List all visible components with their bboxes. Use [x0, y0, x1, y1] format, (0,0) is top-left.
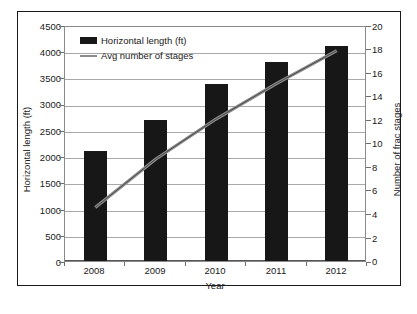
x-axis-title: Year: [64, 280, 366, 291]
legend-item-avg-stages[interactable]: Avg number of stages: [80, 48, 193, 63]
line-path-avg-stages: [95, 51, 337, 208]
x-axis-label-2008: 2008: [67, 266, 121, 276]
right-axis-tick-label: 2: [372, 234, 394, 244]
x-axis-label-2009: 2009: [128, 266, 182, 276]
chart-figure: 4500 4000 3500 3000 2500 2000 1500 1000 …: [0, 0, 417, 314]
x-axis-label-2011: 2011: [249, 266, 303, 276]
left-axis-tick-label: 500: [21, 232, 61, 242]
right-axis-tick-label: 16: [372, 69, 394, 79]
left-axis-tick-label: 4000: [21, 48, 61, 58]
x-axis-tickmark: [64, 262, 65, 266]
legend: Horizontal length (ft) Avg number of sta…: [80, 33, 193, 63]
legend-item-horizontal-length[interactable]: Horizontal length (ft): [80, 33, 193, 48]
x-axis-label-2010: 2010: [188, 266, 242, 276]
line-path-outline: [95, 51, 337, 208]
x-axis-tickmark: [366, 262, 367, 266]
x-axis-label-2012: 2012: [309, 266, 363, 276]
left-y-axis-title: Horizontal length (ft): [21, 80, 32, 220]
x-axis-tickmark: [185, 262, 186, 266]
left-axis-tick-label: 0: [21, 258, 61, 268]
legend-label: Avg number of stages: [101, 50, 193, 61]
x-axis-tickmark: [306, 262, 307, 266]
legend-label: Horizontal length (ft): [101, 35, 187, 46]
x-axis-tickmark: [245, 262, 246, 266]
right-axis-tick-label: 20: [372, 22, 394, 32]
right-axis-tick-label: 18: [372, 45, 394, 55]
right-axis-tick-label: 0: [372, 257, 394, 267]
line-swatch-icon: [80, 55, 97, 57]
left-axis-tick-label: 4500: [21, 22, 61, 32]
right-y-axis-title: Number of frac stages: [391, 80, 402, 220]
bar-swatch-icon: [80, 37, 97, 44]
x-axis-tickmark: [124, 262, 125, 266]
